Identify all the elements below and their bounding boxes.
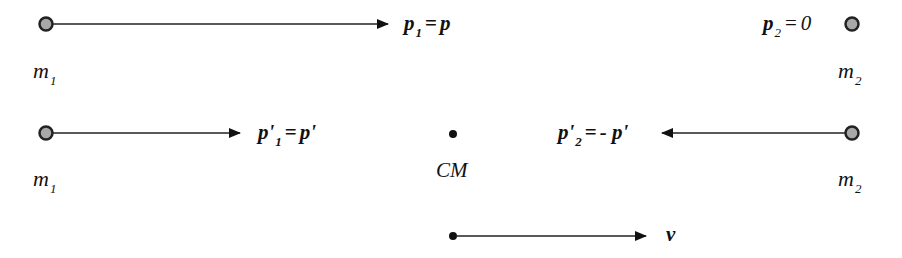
mass-1-cm-frame: [40, 127, 53, 140]
p1-symbol: p: [404, 11, 415, 35]
p2-symbol: p: [763, 11, 774, 35]
velocity-symbol: v: [666, 222, 675, 246]
label-p1-prime-equals-p-prime: p'1=p': [258, 122, 316, 143]
m1-subscript: 1: [50, 181, 57, 196]
equals-sign: =: [285, 120, 297, 144]
m1-subscript: 1: [50, 73, 57, 88]
p2-prime-subscript: 2: [575, 134, 582, 149]
p1-prime-subscript: 1: [275, 134, 282, 149]
label-m2-before: m2: [838, 60, 861, 82]
p2-subscript: 2: [775, 25, 782, 40]
m2-subscript: 2: [855, 181, 862, 196]
p2-rhs: 0: [801, 11, 812, 35]
label-p2-prime-equals-minus-p-prime: p'2=- p': [558, 122, 628, 143]
cm-text: CM: [436, 158, 468, 182]
p1-subscript: 1: [416, 25, 423, 40]
m1-symbol: m: [33, 166, 49, 191]
cm-velocity-origin-dot: [449, 232, 457, 240]
mass-2-before: [846, 18, 859, 31]
equals-sign: =: [585, 120, 597, 144]
m1-symbol: m: [33, 58, 49, 83]
equals-sign: =: [785, 11, 797, 35]
center-of-mass-dot: [449, 130, 457, 138]
p1-rhs: p: [440, 11, 451, 35]
m2-symbol: m: [838, 166, 854, 191]
p1-prime-rhs: p': [300, 120, 316, 144]
label-m1-before: m1: [33, 60, 56, 82]
diagram-canvas: [0, 0, 902, 258]
mass-2-cm-frame: [846, 127, 859, 140]
label-m1-cm-frame: m1: [33, 168, 56, 190]
label-p2-equals-zero: p2=0: [763, 13, 811, 34]
m2-subscript: 2: [855, 73, 862, 88]
label-cm: CM: [436, 160, 468, 181]
equals-sign: =: [425, 11, 437, 35]
mass-1-before: [40, 18, 53, 31]
label-m2-cm-frame: m2: [838, 168, 861, 190]
p1-prime-symbol: p': [258, 120, 274, 144]
p2-prime-rhs: - p': [600, 120, 629, 144]
p2-prime-symbol: p': [558, 120, 574, 144]
label-p1-equals-p: p1=p: [404, 13, 450, 34]
label-velocity: v: [666, 224, 675, 245]
m2-symbol: m: [838, 58, 854, 83]
